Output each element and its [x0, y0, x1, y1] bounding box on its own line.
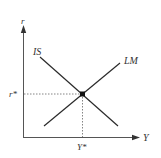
x-axis-label: Y	[143, 132, 150, 143]
x-axis-arrow-icon	[132, 135, 140, 140]
islm-diagram: r Y IS LM r* Y*	[0, 0, 161, 158]
y-axis-arrow-icon	[21, 25, 26, 33]
y-star-label: Y*	[77, 142, 87, 152]
y-axis-label: r	[21, 16, 25, 26]
r-star-label: r*	[9, 89, 18, 99]
lm-label: LM	[123, 55, 139, 66]
is-label: IS	[32, 46, 41, 57]
equilibrium-point	[80, 92, 85, 97]
is-curve	[40, 57, 118, 126]
